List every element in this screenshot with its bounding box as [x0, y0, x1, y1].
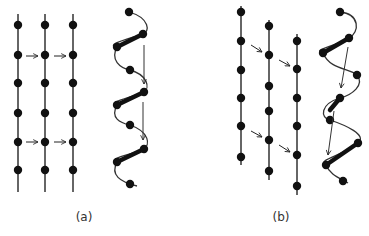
atom-dot [69, 138, 77, 146]
atom-dot [265, 107, 273, 115]
atom-dot [41, 138, 49, 146]
atom-dot [265, 167, 273, 175]
atom-dot [14, 21, 22, 29]
atom-dot [237, 153, 245, 161]
helix-bond [117, 92, 144, 105]
helix-atom-dot [126, 121, 134, 129]
atom-dot [265, 82, 273, 90]
atom-dot [293, 94, 301, 102]
atom-dot [41, 51, 49, 59]
atom-dot [237, 37, 245, 45]
diagram-canvas [0, 0, 369, 236]
atom-dot [14, 138, 22, 146]
helix-atom-dot [336, 94, 344, 102]
atom-dot [293, 122, 301, 130]
atom-dot [293, 182, 301, 190]
atom-dot [41, 21, 49, 29]
atom-dot [14, 166, 22, 174]
helix-atom-dot [339, 177, 347, 185]
helix-atom-dot [126, 66, 134, 74]
atom-dot [237, 66, 245, 74]
helix-atom-dot [113, 158, 121, 166]
panel-a [14, 8, 148, 192]
atom-dot [69, 79, 77, 87]
helix-atom-dot [140, 145, 148, 153]
atom-dot [69, 51, 77, 59]
atom-dot [265, 22, 273, 30]
atom-dot [237, 94, 245, 102]
helix-bond [117, 149, 144, 162]
helix-atom-dot [353, 71, 361, 79]
atom-dot [237, 122, 245, 130]
helix-bond [326, 143, 358, 165]
helix-atom-dot [322, 161, 330, 169]
shift-arrow-icon [279, 145, 290, 152]
atom-dot [69, 21, 77, 29]
atom-dot [41, 109, 49, 117]
helix-atom-dot [113, 43, 121, 51]
atom-dot [293, 65, 301, 73]
helix-atom-dot [140, 88, 148, 96]
atom-dot [69, 166, 77, 174]
shift-arrow-icon [279, 60, 290, 66]
helix-atom-dot [319, 49, 327, 57]
helix-atom-dot [345, 34, 353, 42]
helix-atom-dot [126, 180, 134, 188]
caption-a: (a) [76, 210, 93, 224]
atom-dot [41, 79, 49, 87]
helix-atom-dot [139, 30, 147, 38]
atom-dot [237, 8, 245, 16]
shift-arrow-icon [251, 45, 262, 52]
atom-dot [14, 79, 22, 87]
helix-arrow-icon [341, 47, 348, 88]
caption-b: (b) [273, 210, 290, 224]
helix-atom-dot [336, 8, 344, 16]
atom-dot [41, 166, 49, 174]
helix-bond [117, 34, 143, 47]
shift-arrow-icon [251, 131, 262, 137]
atom-dot [14, 109, 22, 117]
helix-bond [323, 38, 349, 53]
atom-dot [69, 109, 77, 117]
helix-atom-dot [354, 139, 362, 147]
helix-atom-dot [125, 8, 133, 16]
atom-dot [265, 136, 273, 144]
helix-atom-dot [113, 101, 121, 109]
atom-dot [293, 37, 301, 45]
atom-dot [265, 51, 273, 59]
panel-b [237, 6, 362, 195]
atom-dot [293, 151, 301, 159]
atom-dot [14, 51, 22, 59]
